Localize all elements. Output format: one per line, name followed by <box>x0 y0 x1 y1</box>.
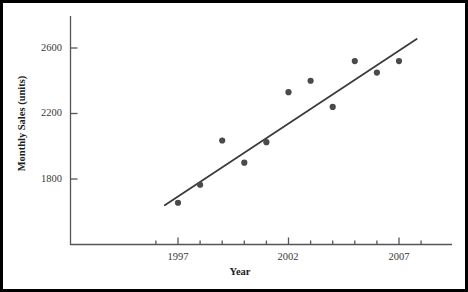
trend-line-segment <box>165 39 417 205</box>
y-tick-label-1800: 1800 <box>22 173 62 184</box>
x-tick-label-2007: 2007 <box>377 251 421 262</box>
x-axis-ticks <box>156 238 421 245</box>
x-tick-label-2002: 2002 <box>266 251 310 262</box>
data-point <box>330 104 336 110</box>
data-points <box>175 58 402 206</box>
y-tick-label-2200: 2200 <box>22 107 62 118</box>
data-point <box>197 182 203 188</box>
data-point <box>285 89 291 95</box>
data-point <box>374 69 380 75</box>
data-point <box>263 139 269 145</box>
axis-lines <box>70 16 452 245</box>
trend-line <box>165 39 417 205</box>
data-point <box>241 160 247 166</box>
data-point <box>175 200 181 206</box>
scatter-plot-canvas <box>0 0 468 292</box>
x-tick-label-1997: 1997 <box>156 251 200 262</box>
y-tick-label-2600: 2600 <box>22 42 62 53</box>
chart-figure: 2600 2200 1800 1997 2002 2007 Monthly Sa… <box>0 0 468 292</box>
data-point <box>219 137 225 143</box>
data-point <box>396 58 402 64</box>
x-axis-title: Year <box>200 266 280 277</box>
y-axis-title: Monthly Sales (units) <box>16 64 27 184</box>
data-point <box>352 58 358 64</box>
y-axis-ticks <box>71 48 78 179</box>
data-point <box>308 78 314 84</box>
